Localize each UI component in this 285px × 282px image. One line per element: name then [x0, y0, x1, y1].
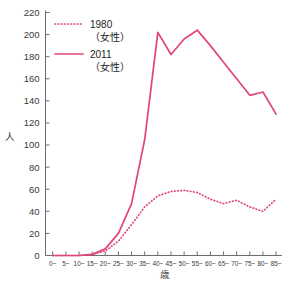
x-tick-label: 85~	[271, 260, 282, 267]
x-tick-label: 30~	[126, 260, 137, 267]
y-tick-label: 220	[24, 7, 40, 18]
y-tick-label: 180	[24, 51, 40, 62]
chart-container: 020406080100120140160180200220 0~5~10~15…	[0, 0, 285, 282]
y-tick-label: 60	[29, 184, 40, 195]
x-tick-label: 65~	[218, 260, 229, 267]
x-tick-label: 50~	[179, 260, 190, 267]
series-layer	[53, 30, 276, 255]
y-tick-label: 40	[29, 206, 40, 217]
y-tick-label: 80	[29, 162, 40, 173]
x-axis-tick-labels: 0~5~10~15~20~25~30~35~40~45~50~55~60~65~…	[49, 260, 282, 267]
y-tick-label: 120	[24, 117, 40, 128]
y-tick-label: 160	[24, 73, 40, 84]
x-tick-label: 5~	[62, 260, 70, 267]
legend-label-year-2: 2011	[90, 49, 112, 60]
y-tick-label: 0	[34, 250, 39, 261]
line-chart: 020406080100120140160180200220 0~5~10~15…	[0, 0, 285, 282]
y-tick-label: 200	[24, 29, 40, 40]
y-tick-label: 140	[24, 95, 40, 106]
x-tick-label: 0~	[49, 260, 57, 267]
x-tick-label: 20~	[100, 260, 111, 267]
x-tick-label: 75~	[244, 260, 255, 267]
chart-legend: 1980（女性）2011（女性）	[55, 19, 130, 73]
x-tick-label: 25~	[113, 260, 124, 267]
legend-label-sex-2: （女性）	[90, 61, 130, 73]
x-tick-label: 45~	[166, 260, 177, 267]
y-axis-ticks	[46, 13, 50, 256]
series-line-2	[53, 30, 276, 255]
x-tick-label: 15~	[87, 260, 98, 267]
legend-label-sex-1: （女性）	[90, 31, 130, 43]
x-tick-label: 70~	[231, 260, 242, 267]
x-tick-label: 35~	[139, 260, 150, 267]
x-axis-title: 歳	[160, 269, 170, 280]
x-tick-label: 10~	[74, 260, 85, 267]
x-tick-label: 55~	[192, 260, 203, 267]
y-axis-tick-labels: 020406080100120140160180200220	[24, 7, 40, 261]
series-line-1	[53, 190, 276, 255]
x-tick-label: 60~	[205, 260, 216, 267]
x-tick-label: 80~	[258, 260, 269, 267]
y-axis-title: 人	[5, 131, 15, 142]
x-tick-label: 40~	[152, 260, 163, 267]
y-tick-label: 100	[24, 139, 40, 150]
legend-label-year-1: 1980	[90, 19, 113, 30]
y-tick-label: 20	[29, 228, 40, 239]
